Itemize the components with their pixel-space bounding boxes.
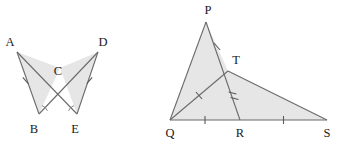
geometry-figure-canvas: A B C D E P Q R S T	[0, 0, 340, 146]
vertex-label-b: B	[30, 122, 38, 136]
vertex-label-c: C	[54, 64, 62, 78]
vertex-label-s: S	[324, 126, 331, 140]
vertex-label-t: T	[232, 53, 240, 67]
vertex-label-p: P	[205, 3, 212, 17]
vertex-label-r: R	[236, 126, 245, 140]
vertex-label-d: D	[98, 35, 107, 49]
vertex-label-a: A	[5, 35, 14, 49]
vertex-label-e: E	[71, 122, 79, 136]
vertex-label-q: Q	[165, 126, 174, 140]
